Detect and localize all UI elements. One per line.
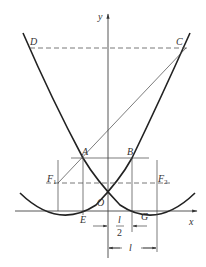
half-dim-denominator: 2	[117, 227, 122, 238]
point-g-label: G	[141, 211, 148, 222]
focus-f1-label: F1	[46, 173, 57, 186]
full-dim-label: l	[129, 242, 132, 253]
point-e-label: E	[79, 214, 86, 225]
origin-label: O	[97, 197, 104, 208]
point-b-label: B	[127, 146, 133, 157]
point-c-label: C	[176, 36, 183, 47]
focus-f2-label: F2	[157, 173, 168, 186]
point-a-label: A	[81, 146, 89, 157]
f1-c-line	[58, 48, 186, 183]
x-axis-label: x	[188, 216, 194, 227]
point-d-label: D	[29, 36, 38, 47]
y-axis-label: y	[97, 11, 103, 22]
parabola-diagram: y x O D C A B E G F1 F2 l 2 l	[0, 0, 206, 267]
half-dim-numerator: l	[118, 214, 121, 225]
right-parabola	[23, 33, 195, 215]
